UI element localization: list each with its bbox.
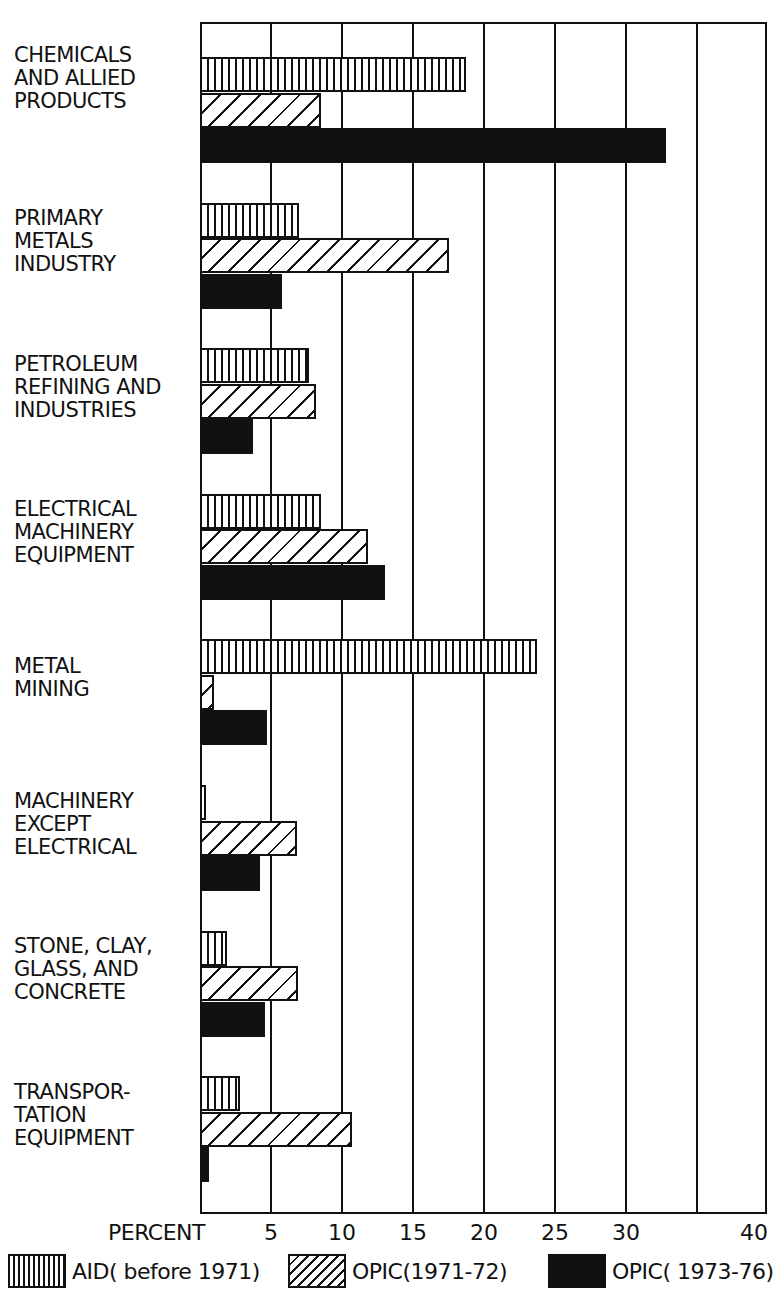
x-tick-label: 10 (328, 1220, 356, 1245)
grid-line (483, 22, 485, 1214)
legend-label: OPIC(1971-72) (352, 1259, 507, 1284)
bar-opic1 (200, 238, 449, 273)
bar-opic2 (200, 128, 666, 163)
bar-aid (200, 348, 309, 383)
legend-item-opic2: OPIC( 1973-76) (548, 1252, 774, 1290)
legend-swatch (548, 1254, 606, 1288)
bar-opic2 (200, 856, 260, 891)
legend-item-opic1: OPIC(1971-72) (288, 1252, 507, 1290)
bar-aid (200, 785, 206, 820)
category-label: CHEMICALS AND ALLIED PRODUCTS (14, 44, 194, 113)
x-tick-label: 5 (264, 1220, 278, 1245)
bar-opic2 (200, 419, 253, 454)
category-label: STONE, CLAY, GLASS, AND CONCRETE (14, 935, 194, 1004)
x-tick-label: 20 (470, 1220, 498, 1245)
x-tick-label: 30 (612, 1220, 640, 1245)
bar-opic2 (200, 274, 282, 309)
x-axis-title: PERCENT (108, 1220, 205, 1245)
bar-opic1 (200, 93, 321, 128)
category-label: ELECTRICAL MACHINERY EQUIPMENT (14, 498, 194, 567)
bar-opic1 (200, 384, 316, 419)
grid-line (412, 22, 414, 1214)
x-tick-label: 40 (740, 1220, 768, 1245)
category-label: PRIMARY METALS INDUSTRY (14, 207, 194, 276)
category-label: TRANSPOR- TATION EQUIPMENT (14, 1081, 194, 1150)
grid-line (554, 22, 556, 1214)
bar-aid (200, 494, 321, 529)
bar-opic1 (200, 966, 298, 1001)
bar-chart: CHEMICALS AND ALLIED PRODUCTSPRIMARY MET… (0, 0, 780, 1302)
legend-swatch (8, 1254, 66, 1288)
bar-opic2 (200, 565, 385, 600)
legend-item-aid: AID( before 1971) (8, 1252, 260, 1290)
bar-opic2 (200, 710, 267, 745)
bar-opic1 (200, 675, 214, 710)
bar-opic2 (200, 1002, 265, 1037)
bar-aid (200, 1076, 240, 1111)
bar-aid (200, 203, 299, 238)
bar-aid (200, 639, 537, 674)
grid-line (625, 22, 627, 1214)
grid-line (270, 22, 272, 1214)
legend-label: AID( before 1971) (72, 1259, 260, 1284)
bar-aid (200, 57, 466, 92)
grid-line (696, 22, 698, 1214)
category-label: PETROLEUM REFINING AND INDUSTRIES (14, 353, 194, 422)
category-label: METAL MINING (14, 655, 194, 701)
x-tick-label: 25 (541, 1220, 569, 1245)
bar-opic1 (200, 821, 297, 856)
bar-opic2 (200, 1147, 209, 1182)
legend-label: OPIC( 1973-76) (612, 1259, 774, 1284)
bar-opic1 (200, 529, 368, 564)
bar-opic1 (200, 1112, 352, 1147)
legend-swatch (288, 1254, 346, 1288)
bar-aid (200, 931, 227, 966)
category-label: MACHINERY EXCEPT ELECTRICAL (14, 790, 194, 859)
x-tick-label: 15 (399, 1220, 427, 1245)
grid-line (341, 22, 343, 1214)
